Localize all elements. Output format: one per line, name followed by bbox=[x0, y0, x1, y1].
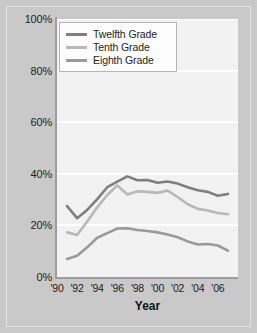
legend-swatch-icon bbox=[66, 59, 87, 62]
x-axis-tick-label: '06 bbox=[211, 282, 224, 294]
y-axis-tick-label: 40% bbox=[4, 168, 52, 180]
chart-figure: 0%20%40%60%80%100% '90'92'94'96'98'00'02… bbox=[0, 0, 257, 333]
legend-swatch-icon bbox=[66, 33, 87, 36]
x-axis-tick-label: '94 bbox=[91, 282, 104, 294]
series-line bbox=[67, 176, 228, 218]
y-axis-tick-label: 60% bbox=[4, 116, 52, 128]
y-axis-tick-label: 20% bbox=[4, 219, 52, 231]
legend-item: Eighth Grade bbox=[66, 54, 170, 66]
legend-item-label: Twelfth Grade bbox=[93, 28, 157, 40]
legend-item: Tenth Grade bbox=[66, 41, 170, 53]
y-axis-tick-label: 100% bbox=[4, 13, 52, 25]
y-axis-labels: 0%20%40%60%80%100% bbox=[0, 0, 52, 333]
x-axis-labels: '90'92'94'96'98'00'02'04'06 bbox=[57, 282, 238, 298]
x-axis-tick-label: '92 bbox=[71, 282, 84, 294]
x-axis-tick-label: '00 bbox=[151, 282, 164, 294]
x-axis-line bbox=[55, 277, 238, 279]
legend-item-label: Tenth Grade bbox=[93, 41, 150, 53]
y-axis-line bbox=[55, 17, 57, 279]
series-line bbox=[67, 185, 228, 235]
x-axis-tick-label: '04 bbox=[191, 282, 204, 294]
x-axis-tick-label: '02 bbox=[171, 282, 184, 294]
y-axis-tick-label: 80% bbox=[4, 65, 52, 77]
x-axis-tick-label: '96 bbox=[111, 282, 124, 294]
y-axis-tick-label: 0% bbox=[4, 271, 52, 283]
legend-item-label: Eighth Grade bbox=[93, 54, 154, 66]
legend-item: Twelfth Grade bbox=[66, 28, 170, 40]
x-axis-title: Year bbox=[57, 299, 238, 313]
x-axis-tick-label: '98 bbox=[131, 282, 144, 294]
chart-legend: Twelfth GradeTenth GradeEighth Grade bbox=[59, 22, 177, 72]
x-axis-tick-label: '90 bbox=[50, 282, 63, 294]
legend-swatch-icon bbox=[66, 46, 87, 49]
series-line bbox=[67, 228, 228, 259]
